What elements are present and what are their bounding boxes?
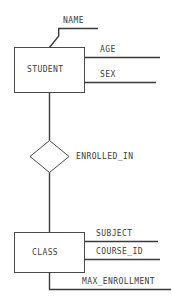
attribute-connector-name — [50, 29, 59, 48]
attribute-label-course-id: COURSE_ID — [96, 247, 143, 256]
entity-label-class: CLASS — [32, 248, 58, 257]
relationship-diamond-enrolled-in[interactable] — [30, 141, 69, 173]
attribute-label-subject: SUBJECT — [96, 229, 133, 238]
attribute-label-name: NAME — [63, 16, 84, 25]
attribute-label-sex: SEX — [100, 70, 116, 79]
attribute-label-max-enrollment: MAX_ENROLLMENT — [82, 277, 155, 286]
er-diagram-canvas: STUDENT NAME AGE SEX ENROLLED_IN CLASS S… — [0, 0, 172, 305]
attribute-label-age: AGE — [100, 45, 116, 54]
entity-label-student: STUDENT — [27, 65, 64, 74]
relationship-label-enrolled-in: ENROLLED_IN — [76, 152, 133, 161]
